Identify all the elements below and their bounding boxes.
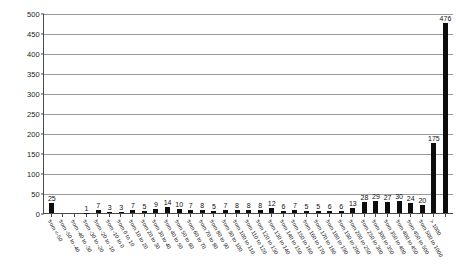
bar-slot	[58, 14, 70, 213]
x-axis-tick-mark	[294, 214, 295, 217]
bar-slot: 28	[359, 14, 371, 213]
bar-value-label: 29	[372, 193, 380, 200]
bar-value-label: 14	[164, 199, 172, 206]
bar-slot: 8	[197, 14, 209, 213]
bar-slot: 7	[289, 14, 301, 213]
bar-value-label: 28	[360, 194, 368, 201]
bar-slot: 5	[312, 14, 324, 213]
x-axis-label-slot: from 350 to 400	[381, 216, 393, 280]
bar-value-label: 30	[395, 193, 403, 200]
bar-value-label: 175	[428, 135, 440, 142]
bar-slot: 7	[92, 14, 104, 213]
x-axis-tick-mark	[283, 214, 284, 217]
bar-value-label: 7	[189, 202, 193, 209]
x-axis-label-slot: from 170 to 180	[312, 216, 324, 280]
bar-value-label: 5	[316, 203, 320, 210]
x-axis-tick-mark	[225, 214, 226, 217]
bar-slot: 476	[440, 14, 452, 213]
bar: 3	[107, 212, 112, 213]
x-axis-label-slot: from 20 to 30	[138, 216, 150, 280]
x-axis-label-slot: from 30 to 40	[149, 216, 161, 280]
bar-value-label: 7	[293, 202, 297, 209]
y-axis-tick-label: 250	[27, 110, 44, 119]
bar: 24	[408, 203, 413, 213]
bar-value-label: 9	[154, 201, 158, 208]
x-axis-tick-mark	[410, 214, 411, 217]
bar: 25	[49, 203, 54, 213]
x-axis-label-slot: from 160 to 170	[300, 216, 312, 280]
bar-slot	[69, 14, 81, 213]
bar: 9	[153, 209, 158, 213]
bar: 20	[420, 205, 425, 213]
bar-slot: 6	[335, 14, 347, 213]
x-axis-label-slot: from 80 to 90	[207, 216, 219, 280]
bar: 6	[281, 211, 286, 213]
y-axis-tick-label: 50	[31, 190, 44, 199]
x-axis-tick-mark	[271, 214, 272, 217]
bar-value-label: 12	[268, 200, 276, 207]
bar-slot: 5	[301, 14, 313, 213]
bar: 7	[96, 210, 101, 213]
bar: 6	[327, 211, 332, 213]
bar-slot: 3	[115, 14, 127, 213]
x-axis-label-slot: from -20 to -10	[91, 216, 103, 280]
bar-slot: 8	[243, 14, 255, 213]
bar-value-label: 8	[235, 202, 239, 209]
x-axis-label-slot: > 1000	[428, 216, 440, 280]
x-axis-label-slot: from 500 to 1000	[416, 216, 428, 280]
bar-chart: 050100150200250300350400450500 251733759…	[0, 0, 460, 280]
bar: 12	[269, 208, 274, 213]
x-axis-tick-mark	[178, 214, 179, 217]
x-axis-label-slot: from 90 to 100	[219, 216, 231, 280]
x-axis-tick-mark	[306, 214, 307, 217]
bar-slot: 29	[370, 14, 382, 213]
bar: 3	[119, 212, 124, 213]
x-axis-tick-mark	[445, 214, 446, 217]
bar-slot: 8	[231, 14, 243, 213]
bar-value-label: 20	[418, 197, 426, 204]
x-axis-tick-mark	[62, 214, 63, 217]
x-axis-label-slot: from 450 to 500	[404, 216, 416, 280]
bar-value-label: 8	[258, 202, 262, 209]
x-axis-tick-mark	[202, 214, 203, 217]
x-axis-tick-mark	[132, 214, 133, 217]
bar: 6	[339, 211, 344, 213]
bar-value-label: 8	[200, 202, 204, 209]
bar-slot: 6	[324, 14, 336, 213]
bar-slot: 3	[104, 14, 116, 213]
x-axis-tick-mark	[144, 214, 145, 217]
bar-slot: 24	[405, 14, 417, 213]
x-axis-tick-mark	[248, 214, 249, 217]
bar-slot: 7	[127, 14, 139, 213]
x-axis-tick-mark	[213, 214, 214, 217]
bar: 14	[165, 207, 170, 213]
x-axis-tick-mark	[109, 214, 110, 217]
bar-value-label: 5	[142, 203, 146, 210]
x-axis-label-slot: from -30 to -20	[80, 216, 92, 280]
bar: 7	[292, 210, 297, 213]
x-axis-label-slot: from 40 to 50	[161, 216, 173, 280]
x-axis-tick-mark	[399, 214, 400, 217]
bar-slot: 175	[428, 14, 440, 213]
y-axis-tick-label: 100	[27, 170, 44, 179]
x-axis-tick-mark	[155, 214, 156, 217]
y-axis-tick-label: 300	[27, 90, 44, 99]
bar-value-label: 5	[305, 203, 309, 210]
y-axis-tick-label: 350	[27, 70, 44, 79]
bar-slot: 27	[382, 14, 394, 213]
bar-slot: 10	[173, 14, 185, 213]
x-axis-tick-mark	[387, 214, 388, 217]
bar-value-label: 24	[407, 195, 415, 202]
bar-slot: 14	[162, 14, 174, 213]
x-axis-label-slot: from 10 to 20	[126, 216, 138, 280]
x-axis-label-slot: from -40 to -30	[68, 216, 80, 280]
bar: 13	[350, 208, 355, 213]
bar-value-label: 5	[212, 203, 216, 210]
x-axis-tick-mark	[86, 214, 87, 217]
bar-value-label: 3	[119, 204, 123, 211]
bar-value-label: 7	[96, 202, 100, 209]
bar-value-label: 8	[247, 202, 251, 209]
bar: 8	[235, 210, 240, 213]
bar: 30	[397, 201, 402, 213]
bar-value-label: 6	[328, 203, 332, 210]
